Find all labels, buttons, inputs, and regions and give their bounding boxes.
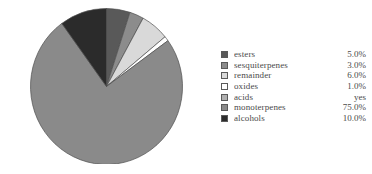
legend-value: 75.0%: [336, 102, 366, 113]
legend-value: 3.0%: [336, 60, 366, 71]
legend-row[interactable]: monoterpenes75.0%: [221, 102, 366, 113]
legend-label: sesquiterpenes: [234, 60, 336, 71]
legend-row[interactable]: alcohols10.0%: [221, 113, 366, 124]
legend-row[interactable]: remainder6.0%: [221, 70, 366, 81]
legend-swatch-oxides: [221, 83, 228, 90]
legend-label: remainder: [234, 70, 336, 81]
pie-slices-group: [31, 9, 183, 165]
pie-chart-figure: esters5.0%sesquiterpenes3.0%remainder6.0…: [0, 0, 372, 174]
legend-swatch-esters: [221, 51, 228, 58]
legend-value: 5.0%: [336, 49, 366, 60]
legend-value: 10.0%: [336, 113, 366, 124]
legend-swatch-sesquiterpenes: [221, 62, 228, 69]
legend-label: alcohols: [234, 113, 336, 124]
legend-row[interactable]: oxides1.0%: [221, 81, 366, 92]
legend-label: monoterpenes: [234, 102, 336, 113]
legend-swatch-alcohols: [221, 115, 228, 122]
legend-row[interactable]: acidsyes: [221, 92, 366, 103]
legend-value: 1.0%: [336, 81, 366, 92]
legend-label: acids: [234, 92, 336, 103]
legend-label: esters: [234, 49, 336, 60]
legend-row[interactable]: sesquiterpenes3.0%: [221, 60, 366, 71]
legend-swatch-remainder: [221, 72, 228, 79]
legend-label: oxides: [234, 81, 336, 92]
legend-swatch-monoterpenes: [221, 104, 228, 111]
chart-legend: esters5.0%sesquiterpenes3.0%remainder6.0…: [221, 49, 366, 124]
pie-chart-plot: [30, 7, 183, 164]
legend-value: yes: [336, 92, 366, 103]
legend-swatch-acids: [221, 94, 228, 101]
legend-row[interactable]: esters5.0%: [221, 49, 366, 60]
legend-value: 6.0%: [336, 70, 366, 81]
pie-svg: [30, 7, 183, 164]
